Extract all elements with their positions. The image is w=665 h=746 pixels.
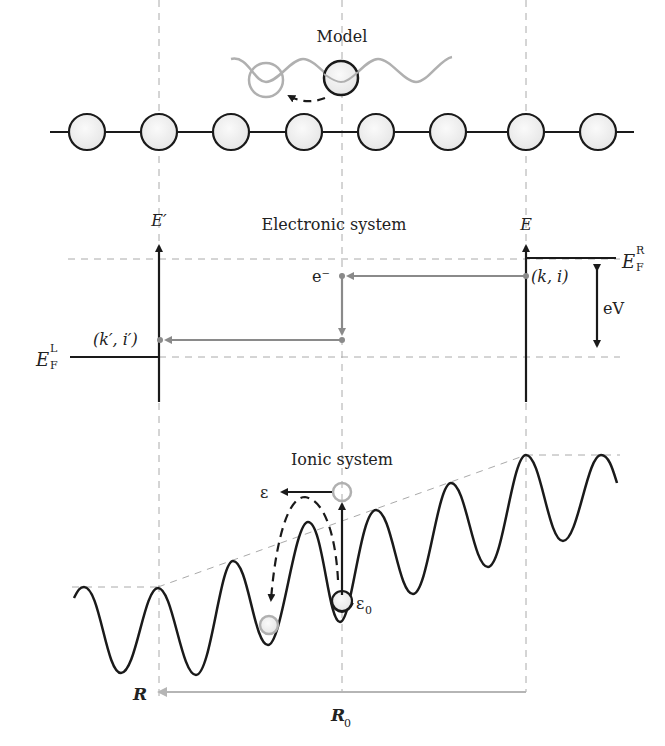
svg-text:R: R bbox=[330, 705, 345, 725]
electron-label: e⁻ bbox=[312, 267, 330, 286]
diagram-canvas: Model Electronic system E′ E L F E E bbox=[0, 0, 665, 746]
atom bbox=[358, 114, 394, 150]
model-hop-target-atom bbox=[249, 63, 283, 97]
bias-label: eV bbox=[603, 299, 624, 318]
atom bbox=[430, 114, 466, 150]
svg-text:0: 0 bbox=[344, 717, 351, 730]
epsilon0-label: ε 0 bbox=[356, 594, 372, 617]
atom bbox=[141, 114, 177, 150]
initial-state-label: (k, i) bbox=[531, 267, 568, 286]
model-hop-arrow bbox=[289, 96, 325, 101]
final-state-label: (k′, i′) bbox=[93, 330, 138, 349]
svg-text:ε: ε bbox=[356, 594, 364, 613]
left-axis-label: E′ bbox=[150, 211, 167, 230]
svg-text:0: 0 bbox=[365, 604, 372, 617]
svg-text:L: L bbox=[50, 342, 58, 355]
ion-final bbox=[260, 616, 278, 634]
coordinate-origin-label: R 0 bbox=[330, 705, 351, 730]
svg-text:E: E bbox=[35, 349, 49, 370]
svg-text:F: F bbox=[50, 359, 58, 372]
right-axis-label: E bbox=[519, 215, 532, 234]
svg-text:E: E bbox=[621, 251, 635, 272]
svg-text:F: F bbox=[636, 261, 644, 274]
model-title: Model bbox=[317, 27, 368, 46]
atom bbox=[213, 114, 249, 150]
ionic-title: Ionic system bbox=[291, 450, 393, 469]
atom bbox=[286, 114, 322, 150]
atom bbox=[508, 114, 544, 150]
svg-text:R: R bbox=[636, 244, 645, 257]
final-state-dot bbox=[157, 337, 163, 343]
ionic-potential-curve bbox=[74, 455, 617, 675]
epsilon-label: ε bbox=[260, 483, 268, 502]
atom bbox=[580, 114, 616, 150]
electronic-title: Electronic system bbox=[262, 215, 407, 234]
right-fermi-label: E R F bbox=[621, 244, 645, 274]
left-fermi-label: E L F bbox=[35, 342, 58, 372]
atom bbox=[69, 114, 105, 150]
coordinate-label: R bbox=[132, 684, 147, 704]
